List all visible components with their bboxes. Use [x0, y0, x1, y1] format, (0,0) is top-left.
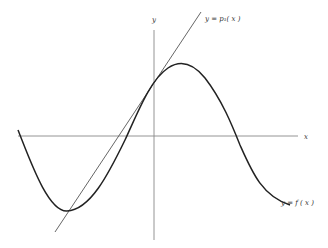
- tangent-line-p1: [55, 12, 201, 232]
- diagram-canvas: y x y = p₁( x ) y = f ( x ): [0, 0, 328, 248]
- y-axis-label: y: [151, 16, 157, 24]
- x-axis-label: x: [304, 133, 308, 141]
- tangent-label: y = p₁( x ): [204, 15, 241, 23]
- curve-label: y = f ( x ): [280, 199, 314, 207]
